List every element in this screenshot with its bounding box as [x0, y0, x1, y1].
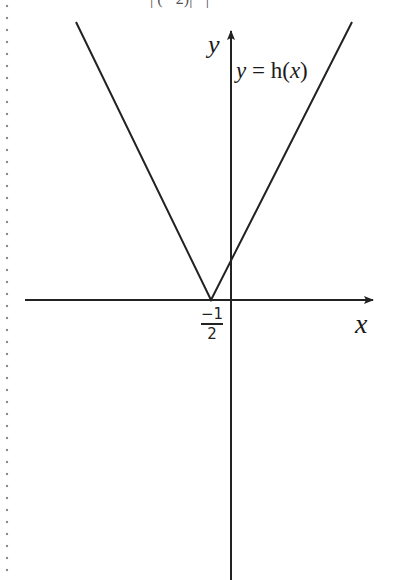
function-label-fn: h( [271, 58, 290, 83]
function-label-arg: x [290, 58, 300, 83]
y-axis-label: y [208, 30, 220, 60]
graph-canvas [0, 0, 403, 580]
vertex-label-denominator: 2 [199, 326, 225, 342]
function-label-var: y [236, 58, 246, 83]
function-graph-h [76, 22, 352, 300]
function-label-eq: = [246, 58, 270, 83]
vertex-label-numerator: −1 [199, 306, 225, 322]
function-label-close: ) [300, 58, 308, 83]
vertex-label-fraction: −1 2 [199, 306, 225, 342]
x-axis-label: x [355, 308, 367, 340]
function-label: y = h(x) [236, 58, 308, 84]
